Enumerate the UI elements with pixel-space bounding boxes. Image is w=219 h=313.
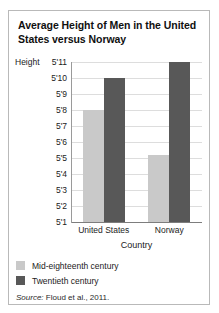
source-note: Source: Floud et al., 2011. (16, 293, 109, 302)
gridline (71, 222, 202, 223)
source-label: Source: (16, 293, 44, 302)
legend-item: Twentieth century (16, 273, 204, 288)
y-axis-tick-label: 5'4 (13, 169, 67, 179)
y-axis-tick-labels: 5'115'105'95'85'75'65'55'45'35'25'1 (9, 62, 67, 223)
legend-item: Mid-eighteenth century (16, 258, 204, 273)
y-axis-line (71, 62, 72, 223)
source-text: Floud et al., 2011. (46, 293, 109, 302)
y-axis-tick-label: 5'2 (13, 201, 67, 211)
plot-region: Height 5'115'105'95'85'75'65'55'45'35'25… (9, 57, 210, 237)
y-axis-tick-label: 5'10 (13, 73, 67, 83)
bar-group (148, 62, 190, 222)
chart-title: Average Height of Men in the United Stat… (18, 19, 200, 46)
legend-label: Mid-eighteenth century (32, 261, 118, 271)
x-axis-title: Country (71, 240, 202, 250)
y-axis-tick-label: 5'6 (13, 137, 67, 147)
bar (169, 62, 190, 222)
legend-label: Twentieth century (32, 276, 99, 286)
legend-swatch (16, 261, 25, 270)
x-axis-category-labels: United StatesNorway (71, 225, 202, 239)
y-axis-tick-label: 5'3 (13, 185, 67, 195)
chart-figure: Average Height of Men in the United Stat… (8, 10, 210, 305)
bar-group (83, 62, 125, 222)
y-axis-tick-label: 5'9 (13, 89, 67, 99)
bar (104, 78, 125, 222)
x-axis-category-label: Norway (155, 225, 184, 235)
y-axis-tick-label: 5'8 (13, 105, 67, 115)
y-axis-tick-label: 5'7 (13, 121, 67, 131)
y-axis-tick-label: 5'11 (13, 57, 67, 67)
chart-legend: Mid-eighteenth centuryTwentieth century (16, 258, 204, 288)
y-axis-tick-label: 5'5 (13, 153, 67, 163)
legend-swatch (16, 276, 25, 285)
bar (148, 155, 169, 222)
plot-area (71, 62, 202, 222)
x-axis-category-label: United States (78, 225, 129, 235)
bar (83, 110, 104, 222)
y-axis-tick-label: 5'1 (13, 217, 67, 227)
